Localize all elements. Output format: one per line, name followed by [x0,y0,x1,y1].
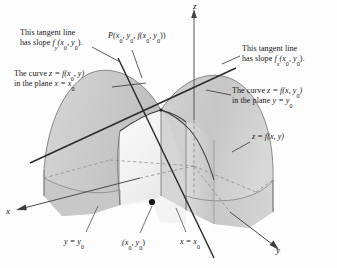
base-y-expr: y = y [64,237,81,246]
curve-left-sub: 0 [71,76,74,82]
point-P-open: P(x [108,31,119,40]
tangent-right-line1: This tangent line [242,44,297,53]
base-x-sub: 0 [197,244,200,250]
partial-derivative-figure: This tangent line has slope fy(x0, y0). … [0,0,337,268]
base-point-sub1: 0 [128,245,131,251]
tangent-left-end: ). [78,38,83,47]
base-x-expr: x = x [180,237,197,246]
curve-left-expr: z = f(x [49,69,71,78]
tangent-right-slope-sub: x [277,61,280,67]
tangent-right-sub0a: 0 [286,61,289,67]
point-P-marker [159,108,162,111]
leader-point-P [132,50,142,78]
curve-left-end: , y) [74,69,85,78]
label-base-y-equals-y0: y = y0 [64,237,84,247]
curve-right-pre: The curve [232,86,267,95]
axis-label-x: x [6,206,10,216]
point-P-sub2: 0 [130,38,133,44]
tangent-right-sub0b: 0 [297,61,300,67]
point-P-mid3: , y [149,31,157,40]
curve-left-plane-sub: 0 [71,86,74,92]
point-P-mid2: , f(x [133,31,146,40]
base-point-sub2: 0 [139,245,142,251]
point-P-sub1: 0 [119,38,122,44]
label-base-point-x0-y0: (x0, y0) [122,238,145,248]
base-y-sub: 0 [81,244,84,250]
label-base-x-equals-x0: x = x0 [180,237,200,247]
label-tangent-line-fy: This tangent line has slope fy(x0, y0). [20,28,83,48]
tangent-left-slope-args: (x [57,38,63,47]
curve-right-plane-expr: y = y [272,96,289,105]
surface-equation: z = f(x, y) [252,132,284,141]
axis-label-z: z [193,1,197,11]
tangent-right-slope-args: (x [279,54,285,63]
tangent-left-sub0b: 0 [75,45,78,51]
label-curve-x-plane: The curve z = f(x0, y) in the plane x = … [14,69,84,89]
curve-left-pre: The curve [14,69,49,78]
point-P-end: )) [160,31,166,40]
curve-right-sub: 0 [296,93,299,99]
tangent-left-line1: This tangent line [20,28,75,37]
tangent-left-slope-sub: y [55,45,58,51]
curve-right-expr: z = f(x, y [267,86,296,95]
curve-left-plane-expr: x = x [54,79,71,88]
point-P-sub4: 0 [157,38,160,44]
axis-x-arrowhead [16,205,27,211]
tangent-left-mid: , y [67,38,75,47]
leader-tangent-right [222,56,240,64]
leader-tangent-left [92,47,120,62]
tangent-right-end: ). [300,54,305,63]
label-tangent-line-fx: This tangent line has slope fx(x0, y0). [242,44,305,64]
label-curve-y-plane: The curve z = f(x, y0) in the plane y = … [232,86,302,106]
tangent-left-sub0a: 0 [64,45,67,51]
curve-left-plane-pre: in the plane [14,79,54,88]
point-P-sub3: 0 [146,38,149,44]
leader-base-point [140,206,152,233]
tangent-left-line2-pre: has slope [20,38,52,47]
tangent-right-line2-pre: has slope [242,54,274,63]
curve-right-plane-sub: 0 [289,103,292,109]
base-point-close: ) [142,238,145,247]
axis-label-y: y [276,245,280,255]
label-point-P: P(x0, y0, f(x0, y0)) [108,31,166,41]
curve-right-plane-pre: in the plane [232,96,272,105]
tangent-right-mid: , y [289,54,297,63]
label-surface-equation: z = f(x, y) [252,132,284,142]
